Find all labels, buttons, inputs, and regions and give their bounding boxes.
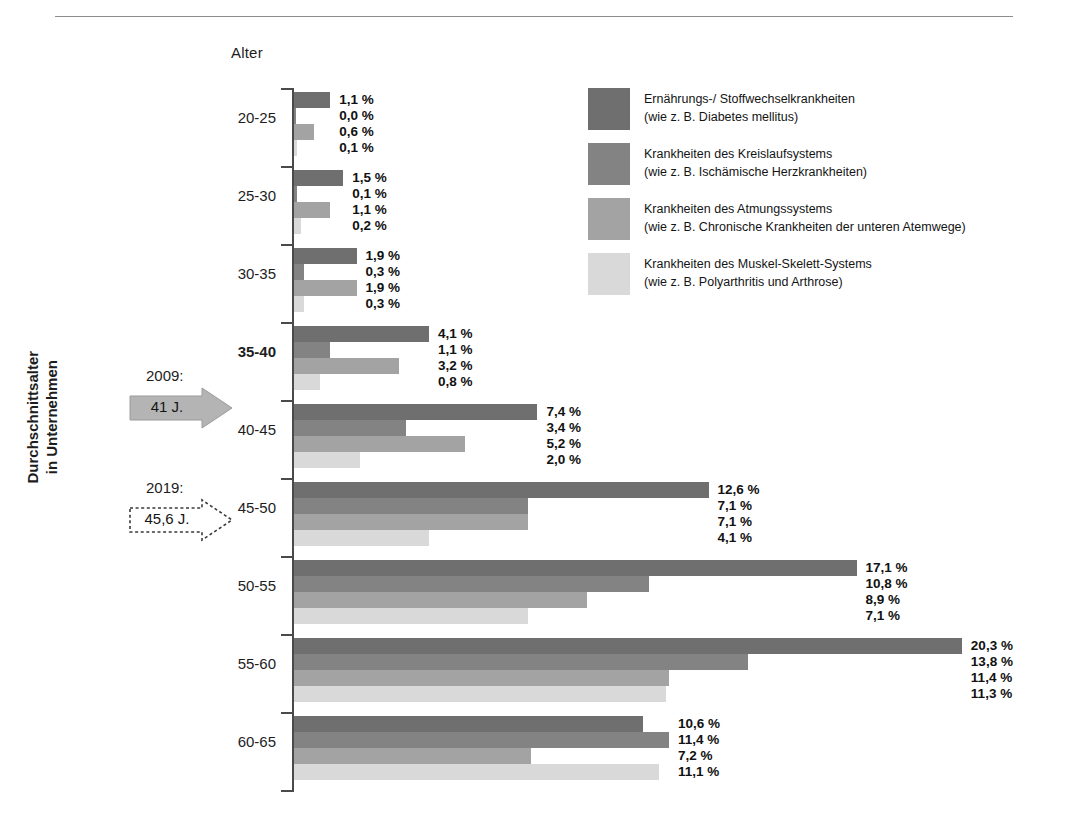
bar-50-55-series4[interactable]	[294, 608, 528, 624]
value-label: 7,1 %	[866, 608, 908, 624]
legend-title: Krankheiten des Kreislaufsystems	[644, 145, 867, 163]
legend-item-3[interactable]: Krankheiten des Atmungssystems(wie z. B.…	[588, 198, 1058, 240]
bar-35-40-series1[interactable]	[294, 326, 429, 342]
value-label: 3,2 %	[438, 358, 473, 374]
value-label-group: 1,9 %0,3 %1,9 %0,3 %	[366, 248, 401, 312]
value-label: 8,9 %	[866, 592, 908, 608]
bar-20-25-series3[interactable]	[294, 124, 314, 140]
axis-tick	[281, 322, 292, 324]
value-label: 1,1 %	[352, 202, 387, 218]
value-label: 11,3 %	[971, 686, 1013, 702]
bar-20-25-series1[interactable]	[294, 92, 330, 108]
axis-tick	[281, 712, 292, 714]
value-label: 11,4 %	[971, 670, 1013, 686]
value-label: 7,2 %	[678, 748, 720, 764]
bar-35-40-series2[interactable]	[294, 342, 330, 358]
legend-subtitle: (wie z. B. Diabetes mellitus)	[644, 108, 855, 126]
bar-40-45-series1[interactable]	[294, 404, 537, 420]
bar-group	[294, 638, 962, 702]
value-label: 4,1 %	[718, 530, 760, 546]
legend-title: Krankheiten des Atmungssystems	[644, 200, 966, 218]
legend-swatch	[588, 143, 630, 185]
legend-swatch	[588, 198, 630, 240]
legend-title: Krankheiten des Muskel-Skelett-Systems	[644, 255, 872, 273]
bar-30-35-series4[interactable]	[294, 296, 304, 312]
value-label-group: 10,6 %11,4 %7,2 %11,1 %	[678, 716, 720, 780]
category-label-35-40: 35-40	[196, 343, 276, 360]
axis-tick	[281, 400, 292, 402]
value-label: 1,9 %	[366, 248, 401, 264]
bar-35-40-series4[interactable]	[294, 374, 320, 390]
bar-60-65-series1[interactable]	[294, 716, 643, 732]
legend-item-2[interactable]: Krankheiten des Kreislaufsystems(wie z. …	[588, 143, 1058, 185]
value-label: 11,4 %	[678, 732, 720, 748]
bar-35-40-series3[interactable]	[294, 358, 399, 374]
bar-45-50-series2[interactable]	[294, 498, 528, 514]
bar-group	[294, 170, 343, 234]
legend-item-1[interactable]: Ernährungs-/ Stoffwechselkrankheiten(wie…	[588, 88, 1058, 130]
bar-55-60-series1[interactable]	[294, 638, 962, 654]
bar-20-25-series4[interactable]	[294, 140, 297, 156]
annotation-2009-arrow: 41 J.	[128, 386, 236, 430]
category-label-30-35: 30-35	[196, 265, 276, 282]
legend-subtitle: (wie z. B. Ischämische Herzkrankheiten)	[644, 163, 867, 181]
bar-60-65-series4[interactable]	[294, 764, 659, 780]
value-label: 1,5 %	[352, 170, 387, 186]
value-label: 0,3 %	[366, 296, 401, 312]
value-label-group: 20,3 %13,8 %11,4 %11,3 %	[971, 638, 1013, 702]
bar-40-45-series4[interactable]	[294, 452, 360, 468]
value-label-group: 7,4 %3,4 %5,2 %2,0 %	[546, 404, 581, 468]
value-label: 1,1 %	[339, 92, 374, 108]
bar-30-35-series1[interactable]	[294, 248, 357, 264]
bar-40-45-series2[interactable]	[294, 420, 406, 436]
bar-50-55-series2[interactable]	[294, 576, 649, 592]
bar-25-30-series4[interactable]	[294, 218, 301, 234]
category-label-25-30: 25-30	[196, 187, 276, 204]
bar-group	[294, 482, 709, 546]
bar-25-30-series3[interactable]	[294, 202, 330, 218]
value-label: 3,4 %	[546, 420, 581, 436]
value-label: 2,0 %	[546, 452, 581, 468]
bar-25-30-series1[interactable]	[294, 170, 343, 186]
legend-item-4[interactable]: Krankheiten des Muskel-Skelett-Systems(w…	[588, 253, 1058, 295]
bar-60-65-series2[interactable]	[294, 732, 669, 748]
value-label: 0,0 %	[339, 108, 374, 124]
bar-30-35-series3[interactable]	[294, 280, 357, 296]
bar-45-50-series1[interactable]	[294, 482, 709, 498]
value-label: 1,9 %	[366, 280, 401, 296]
value-label-group: 1,5 %0,1 %1,1 %0,2 %	[352, 170, 387, 234]
value-label: 4,1 %	[438, 326, 473, 342]
legend-title: Ernährungs-/ Stoffwechselkrankheiten	[644, 90, 855, 108]
bar-60-65-series3[interactable]	[294, 748, 531, 764]
value-label-group: 12,6 %7,1 %7,1 %4,1 %	[718, 482, 760, 546]
bar-group	[294, 326, 429, 390]
bar-55-60-series4[interactable]	[294, 686, 666, 702]
value-label: 11,1 %	[678, 764, 720, 780]
bar-20-25-series2[interactable]	[294, 108, 296, 124]
bar-40-45-series3[interactable]	[294, 436, 465, 452]
category-label-20-25: 20-25	[196, 109, 276, 126]
legend-subtitle: (wie z. B. Polyarthritis und Arthrose)	[644, 273, 872, 291]
bar-group	[294, 248, 357, 312]
bar-55-60-series3[interactable]	[294, 670, 669, 686]
legend-text: Krankheiten des Kreislaufsystems(wie z. …	[644, 143, 867, 182]
value-label-group: 17,1 %10,8 %8,9 %7,1 %	[866, 560, 908, 624]
value-label: 0,3 %	[366, 264, 401, 280]
bar-25-30-series2[interactable]	[294, 186, 297, 202]
axis-tick	[281, 88, 292, 90]
bar-45-50-series4[interactable]	[294, 530, 429, 546]
annotation-2019-value: 45,6 J.	[128, 510, 206, 527]
value-label: 10,6 %	[678, 716, 720, 732]
bar-50-55-series1[interactable]	[294, 560, 857, 576]
value-label: 1,1 %	[438, 342, 473, 358]
bar-50-55-series3[interactable]	[294, 592, 587, 608]
legend-subtitle: (wie z. B. Chronische Krankheiten der un…	[644, 218, 966, 236]
value-label: 13,8 %	[971, 654, 1013, 670]
axis-tick	[281, 244, 292, 246]
bar-45-50-series3[interactable]	[294, 514, 528, 530]
bar-30-35-series2[interactable]	[294, 264, 304, 280]
value-label: 0,6 %	[339, 124, 374, 140]
annotation-2009-value: 41 J.	[128, 398, 206, 415]
annotation-2009-year: 2009:	[128, 368, 236, 385]
bar-55-60-series2[interactable]	[294, 654, 748, 670]
